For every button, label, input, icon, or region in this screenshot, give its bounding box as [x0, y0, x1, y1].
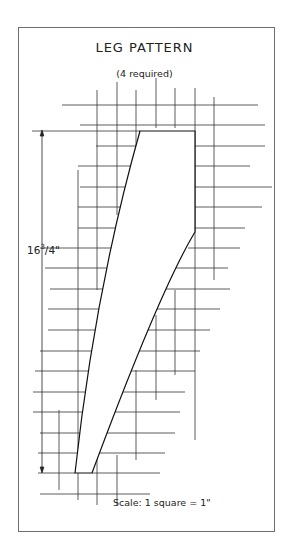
- dimension-fraction: /4": [45, 244, 60, 256]
- leg-pattern-shape: [75, 131, 195, 473]
- pattern-drawing: [0, 0, 289, 547]
- dimension-label: 163/4": [27, 243, 60, 256]
- scale-label: Scale: 1 square = 1": [113, 497, 211, 508]
- dimension-arrow: [40, 130, 44, 473]
- arrow-head-bottom: [40, 467, 44, 473]
- dimension-whole: 16: [27, 244, 40, 256]
